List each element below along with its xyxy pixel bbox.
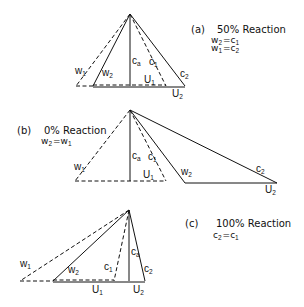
label-w2: w2	[101, 67, 113, 79]
label-w2: w2	[180, 166, 192, 178]
caption-letter-c: (c)	[185, 218, 198, 229]
label-ca: ca	[132, 150, 141, 162]
label-u2: U2	[133, 284, 144, 296]
label-u1: U1	[143, 169, 154, 181]
label-c2: c2	[180, 68, 189, 80]
caption-title-b: 0% Reaction	[44, 125, 106, 136]
label-c1: c1	[148, 151, 157, 163]
label-u2: U2	[172, 88, 183, 100]
label-w1: w1	[74, 65, 86, 77]
vector-w2	[53, 210, 129, 281]
caption-title-c: 100% Reaction	[216, 218, 291, 229]
vector-c2	[130, 110, 277, 183]
equation-b-1: w2=w1	[41, 136, 72, 147]
diagram-b-0-percent-reaction: w1 ca c1 U1 w2 c2 U2 (b) 0% Reaction w2=…	[17, 110, 277, 196]
vector-w2	[130, 110, 185, 183]
velocity-triangles-figure: w1 w2 ca c1 c2 U1 U2 (a) 50% Reaction w2…	[0, 0, 304, 307]
label-c1: c1	[149, 56, 158, 68]
label-ca: ca	[131, 246, 140, 258]
equation-a-2: w1=c2	[211, 43, 240, 54]
label-w1: w1	[73, 161, 85, 173]
label-c2: c2	[144, 263, 153, 275]
diagram-c-100-percent-reaction: w1 w2 c1 ca c2 U1 U2 (c) 100% Reaction c…	[19, 210, 291, 296]
label-u1: U1	[144, 74, 155, 86]
label-c1: c1	[104, 261, 113, 273]
label-w2: w2	[67, 264, 79, 276]
label-w1: w1	[19, 258, 31, 270]
label-c2: c2	[256, 163, 265, 175]
label-u2: U2	[265, 184, 276, 196]
caption-letter-b: (b)	[17, 125, 31, 136]
diagram-a-50-percent-reaction: w1 w2 ca c1 c2 U1 U2 (a) 50% Reaction w2…	[74, 14, 286, 100]
equation-c-1: c2=c1	[213, 230, 239, 241]
label-ca: ca	[132, 55, 141, 67]
vector-c2	[130, 14, 185, 86]
caption-letter-a: (a)	[191, 24, 205, 35]
label-u1: U1	[92, 284, 103, 296]
vector-c1	[114, 210, 129, 281]
caption-title-a: 50% Reaction	[217, 24, 286, 35]
